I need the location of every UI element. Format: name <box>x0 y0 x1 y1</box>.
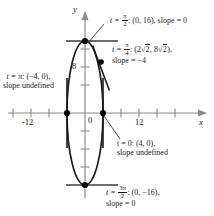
callout-bottom-t-prefix: t = <box>106 188 118 197</box>
point-t-3pi-over-2 <box>82 182 88 188</box>
point-t-pi-over-4 <box>98 59 104 65</box>
callout-ur-point-mid: , 8 <box>150 45 158 54</box>
point-t-pi-over-2 <box>82 38 88 44</box>
callout-ur-point-close: ), <box>167 45 172 54</box>
parametric-ellipse-figure: y x -12 12 8 0 t = π2: (0, 16), slope = … <box>0 0 214 216</box>
callout-t-pi: t = π: (−4, 0), slope undefined <box>3 73 54 91</box>
callout-top-frac-denominator: 2 <box>122 20 127 28</box>
callout-bottom-fraction: 3π2 <box>118 185 127 200</box>
point-t-pi <box>64 110 70 116</box>
leader-line-right <box>104 116 120 139</box>
y-axis-arrowhead <box>81 11 88 20</box>
callout-left-prefix: t = <box>7 72 19 81</box>
callout-bottom-frac-numerator: 3π <box>118 185 127 192</box>
x-tick-label-12: 12 <box>135 118 144 128</box>
callout-bottom-slope: slope = 0 <box>106 200 159 209</box>
callout-ur-slope: slope = −4 <box>112 57 172 66</box>
plot-canvas <box>0 0 214 216</box>
radical-sqrt-2-second: √2 <box>158 44 167 54</box>
x-tick-label-negative-12: -12 <box>22 118 33 128</box>
x-axis-label: x <box>199 117 203 127</box>
callout-ur-point-open: : (2 <box>130 45 141 54</box>
callout-bottom-point-text: : (0, −16), <box>127 188 159 197</box>
callout-top-t-prefix: t = <box>110 16 122 25</box>
callout-left-slope: slope undefined <box>3 82 54 91</box>
callout-ur-t-prefix: t = <box>112 45 124 54</box>
radical-sqrt-2-first: √2 <box>141 44 150 54</box>
point-t-0 <box>100 110 106 116</box>
callout-top-fraction: π2 <box>122 13 127 28</box>
callout-top-frac-numerator: π <box>122 13 127 20</box>
callout-top-point-text: : (0, 16), slope = 0 <box>128 16 187 25</box>
callout-ur-frac-numerator: π <box>124 42 129 49</box>
y-axis-label: y <box>73 4 77 14</box>
callout-t-3pi-over-2: t = 3π2: (0, −16), slope = 0 <box>106 185 159 209</box>
callout-right-line2: slope undefined <box>117 149 168 158</box>
x-axis-arrowhead <box>198 109 207 116</box>
callout-t-pi-over-4: t = π4: (2√2, 8√2), slope = −4 <box>112 42 172 66</box>
callout-t-0: t = 0: (4, 0), slope undefined <box>117 140 168 158</box>
callout-ur-fraction: π4 <box>124 42 129 57</box>
origin-label: 0 <box>88 116 92 126</box>
callout-left-rest: : (−4, 0), <box>22 72 50 81</box>
y-tick-label-8: 8 <box>72 62 76 72</box>
callout-t-pi-over-2: t = π2: (0, 16), slope = 0 <box>110 13 187 28</box>
